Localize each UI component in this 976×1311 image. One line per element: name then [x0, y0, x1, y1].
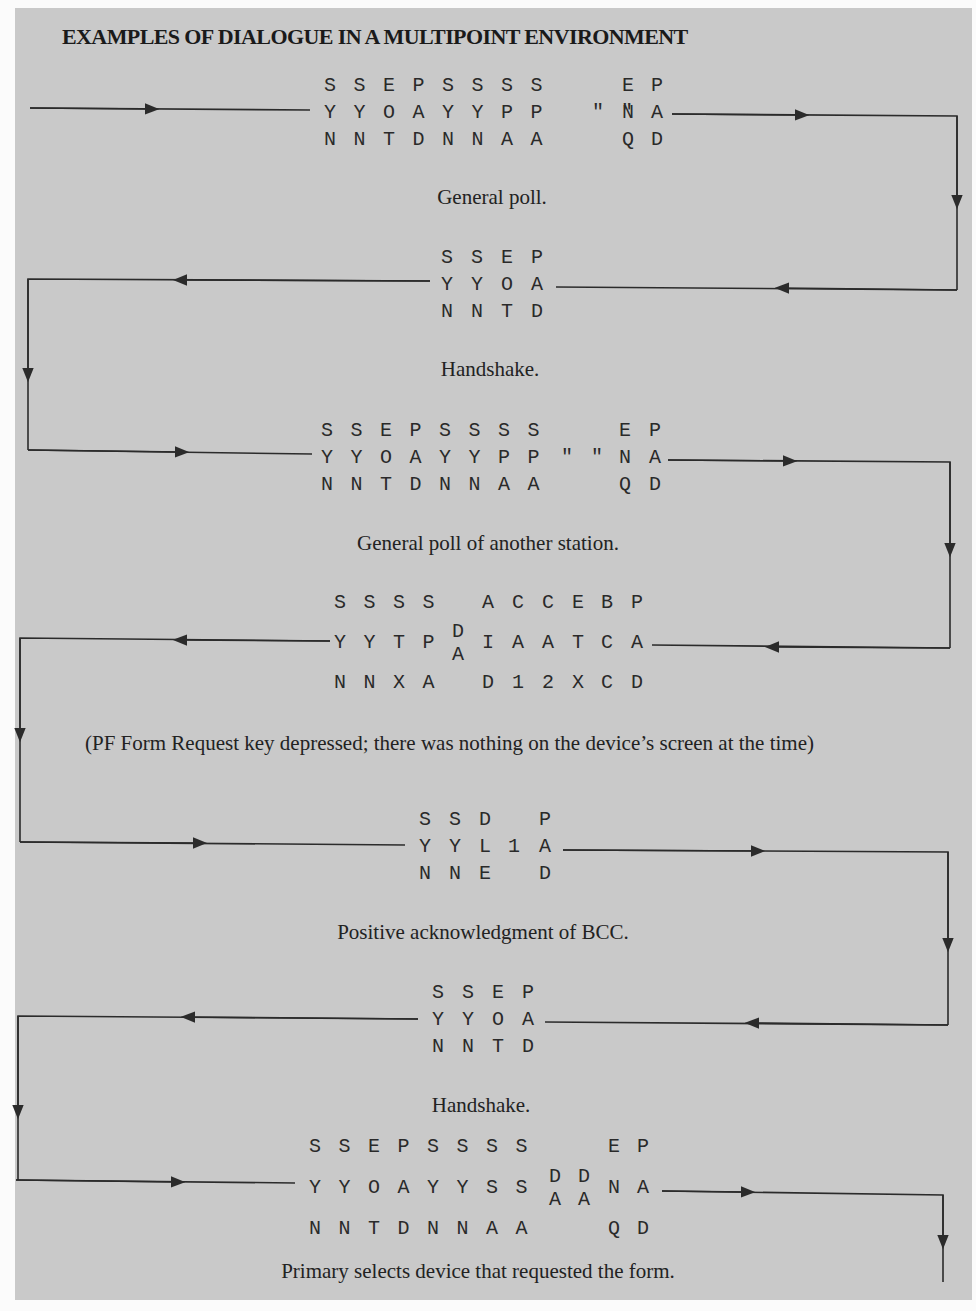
control-char: N: [608, 1178, 620, 1198]
control-char: S: [427, 1137, 439, 1157]
control-char: D: [539, 864, 551, 884]
control-char: A: [482, 593, 494, 613]
control-char: A: [637, 1178, 649, 1198]
control-char: P: [530, 103, 542, 123]
arrow-line-out-7: [662, 1191, 943, 1282]
control-char: E: [383, 76, 395, 96]
control-char: N: [338, 1219, 350, 1239]
control-char: S: [309, 1137, 321, 1157]
control-char: T: [393, 633, 405, 653]
control-char: N: [309, 1219, 321, 1239]
control-char: N: [432, 1037, 444, 1057]
control-char: O: [501, 275, 513, 295]
control-char: E: [622, 76, 634, 96]
control-char: Y: [363, 633, 375, 653]
control-char: D: [651, 130, 663, 150]
control-char: E: [368, 1137, 380, 1157]
control-char: A: [515, 1219, 527, 1239]
control-char: D: [578, 1167, 590, 1187]
control-char: S: [486, 1178, 498, 1198]
control-char: Y: [419, 837, 431, 857]
control-char: X: [572, 673, 584, 693]
control-char: E: [619, 421, 631, 441]
control-char: A: [486, 1219, 498, 1239]
control-char: E: [501, 248, 513, 268]
caption-handshake-2: Handshake.: [432, 1093, 531, 1118]
control-char: N: [462, 1037, 474, 1057]
control-char: Y: [432, 1010, 444, 1030]
control-char: P: [539, 810, 551, 830]
control-char: P: [501, 103, 513, 123]
control-char: S: [338, 1137, 350, 1157]
control-char: 1: [512, 673, 524, 693]
control-char: N: [471, 302, 483, 322]
control-char: C: [542, 593, 554, 613]
control-char: D: [409, 475, 421, 495]
control-char: Y: [324, 103, 336, 123]
control-char: P: [651, 76, 663, 96]
control-char: S: [321, 421, 333, 441]
control-char: Y: [338, 1178, 350, 1198]
control-char: P: [409, 421, 421, 441]
control-char: N: [619, 448, 631, 468]
control-char: S: [350, 421, 362, 441]
control-char: B: [601, 593, 613, 613]
control-char: T: [492, 1037, 504, 1057]
caption-general-poll-another: General poll of another station.: [357, 531, 619, 556]
control-char: E: [608, 1137, 620, 1157]
control-char: N: [456, 1219, 468, 1239]
control-char: A: [409, 448, 421, 468]
control-char: Y: [309, 1178, 321, 1198]
control-char: Y: [350, 448, 362, 468]
control-char: P: [498, 448, 510, 468]
control-char: D: [637, 1219, 649, 1239]
control-char: S: [449, 810, 461, 830]
control-char: N: [324, 130, 336, 150]
control-char: A: [422, 673, 434, 693]
arrow-line-out-2: [28, 279, 430, 450]
control-char: T: [383, 130, 395, 150]
control-char: A: [649, 448, 661, 468]
control-char: S: [515, 1178, 527, 1198]
control-char: P: [631, 593, 643, 613]
control-char: N: [439, 475, 451, 495]
control-char: E: [572, 593, 584, 613]
control-char: D: [631, 673, 643, 693]
control-char: T: [380, 475, 392, 495]
control-char: P: [522, 983, 534, 1003]
control-char: T: [368, 1219, 380, 1239]
control-char: O: [368, 1178, 380, 1198]
control-char: P: [527, 448, 539, 468]
control-char: T: [572, 633, 584, 653]
control-char: S: [462, 983, 474, 1003]
control-char: D: [397, 1219, 409, 1239]
control-char: S: [419, 810, 431, 830]
control-char: A: [501, 130, 513, 150]
control-char: X: [393, 673, 405, 693]
control-char: S: [471, 76, 483, 96]
control-char: D: [549, 1167, 561, 1187]
control-char: A: [578, 1190, 590, 1210]
control-char: Y: [334, 633, 346, 653]
control-char: D: [482, 673, 494, 693]
control-char: O: [383, 103, 395, 123]
control-char: O: [380, 448, 392, 468]
control-char: I: [482, 633, 494, 653]
control-char: A: [512, 633, 524, 653]
caption-primary-selects: Primary selects device that requested th…: [281, 1259, 675, 1284]
control-char: D: [531, 302, 543, 322]
control-char: S: [456, 1137, 468, 1157]
control-char: S: [501, 76, 513, 96]
control-char: S: [363, 593, 375, 613]
control-char: Y: [439, 448, 451, 468]
control-char: S: [441, 248, 453, 268]
control-char: Y: [471, 275, 483, 295]
control-char: Q: [622, 130, 634, 150]
control-char: D: [412, 130, 424, 150]
control-char: S: [422, 593, 434, 613]
control-char: A: [539, 837, 551, 857]
control-char: Y: [462, 1010, 474, 1030]
control-char: N: [419, 864, 431, 884]
control-char: ": [561, 448, 573, 468]
control-char: P: [422, 633, 434, 653]
